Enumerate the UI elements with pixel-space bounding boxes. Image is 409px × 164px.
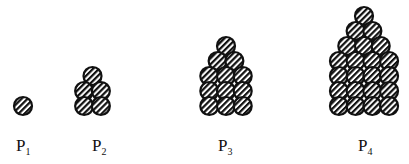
hatched-circle <box>14 97 32 115</box>
pattern-label-p3: P3 <box>218 136 232 157</box>
hatched-circle <box>363 97 381 115</box>
pattern-label-p4: P4 <box>358 136 372 157</box>
label-subscript: 3 <box>227 146 232 157</box>
hatched-circle <box>92 97 110 115</box>
hatched-circle <box>330 97 348 115</box>
hatched-circle <box>200 97 218 115</box>
label-subscript: 4 <box>367 146 372 157</box>
label-letter: P <box>92 136 101 155</box>
svg-text:P1: P1 <box>16 136 30 157</box>
svg-text:P3: P3 <box>218 136 232 157</box>
pattern-p3 <box>200 37 251 115</box>
label-subscript: 1 <box>25 146 30 157</box>
pattern-p1 <box>14 97 32 115</box>
pattern-label-p2: P2 <box>92 136 106 157</box>
hatched-circle <box>347 97 365 115</box>
hatched-circle <box>217 97 235 115</box>
pattern-label-p1: P1 <box>16 136 30 157</box>
hatched-circle <box>234 97 252 115</box>
label-letter: P <box>358 136 367 155</box>
hatched-circle <box>75 97 93 115</box>
label-letter: P <box>218 136 227 155</box>
pattern-p4 <box>330 7 398 115</box>
pattern-p2 <box>75 67 110 115</box>
svg-text:P2: P2 <box>92 136 106 157</box>
svg-text:P4: P4 <box>358 136 372 157</box>
label-subscript: 2 <box>101 146 106 157</box>
pattern-figure: P1 P2 P3 P4 <box>0 0 409 164</box>
label-letter: P <box>16 136 25 155</box>
hatched-circle <box>380 97 398 115</box>
